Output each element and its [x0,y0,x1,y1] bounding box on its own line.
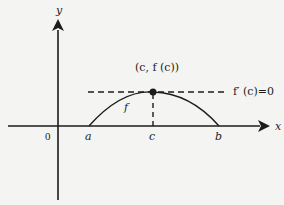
x-axis-label: x [275,120,282,133]
y-axis-arrow-icon [52,19,64,31]
a-label: a [85,130,92,143]
b-label: b [215,130,222,143]
tangent-label: f′ (c)=0 [233,85,274,98]
max-point-dot [150,89,157,96]
y-axis-label: y [55,4,63,17]
origin-label: 0 [45,130,51,142]
c-label: c [149,130,155,143]
curve-f [89,92,219,126]
max-point-label: (c, f (c)) [135,61,179,74]
diagram-canvas: y x 0 a c b (c, f (c)) f f′ (c)=0 [0,0,284,205]
curve-f-label: f [123,101,130,114]
